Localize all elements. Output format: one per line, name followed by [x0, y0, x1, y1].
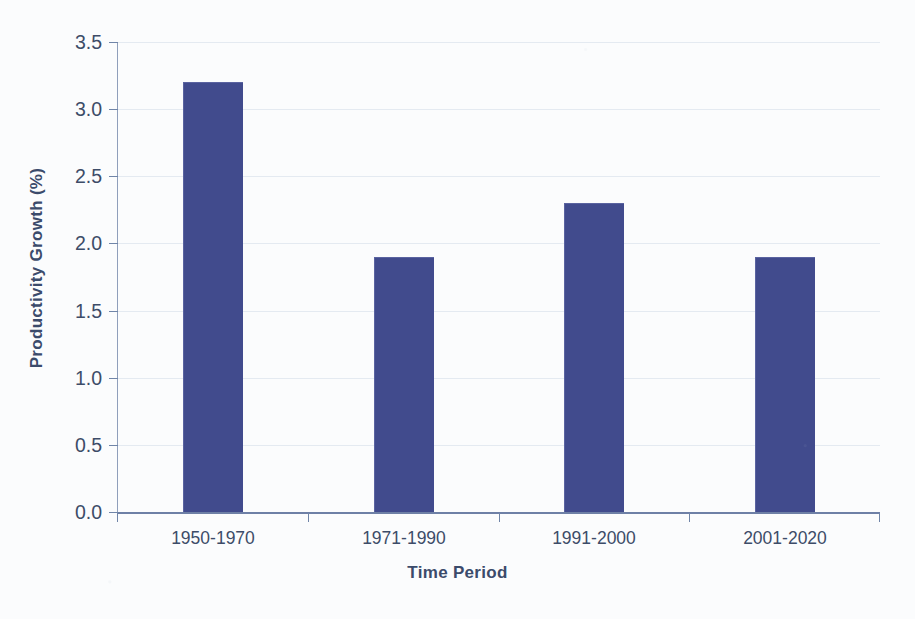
x-tick-label: 2001-2020 [705, 528, 865, 549]
y-tick-mark [109, 445, 118, 446]
y-tick-label: 0.5 [40, 434, 102, 457]
y-tick-label: 1.5 [40, 300, 102, 323]
y-tick-label: 3.5 [40, 31, 102, 54]
x-tick-mark [117, 513, 118, 522]
bar-1971-1990 [374, 257, 434, 512]
y-tick-mark [109, 109, 118, 110]
x-tick-label: 1971-1990 [324, 528, 484, 549]
bar-2001-2020 [755, 257, 815, 512]
gridline [118, 42, 880, 43]
bar-1991-2000 [564, 203, 624, 512]
x-tick-mark [308, 513, 309, 522]
x-axis-title: Time Period [0, 563, 915, 583]
x-tick-mark [879, 513, 880, 522]
bar-chart: 3.5 3.0 2.5 2.0 1.5 1.0 0.5 0.0 1950-197… [0, 0, 915, 619]
y-axis-title: Productivity Growth (%) [27, 138, 47, 398]
y-tick-label: 0.0 [40, 501, 102, 524]
x-tick-mark [499, 513, 500, 522]
y-axis-line [117, 42, 118, 513]
bar-1950-1970 [183, 82, 243, 512]
y-tick-label: 3.0 [40, 98, 102, 121]
y-tick-mark [109, 311, 118, 312]
x-tick-mark [689, 513, 690, 522]
y-tick-label: 2.0 [40, 232, 102, 255]
y-tick-label: 1.0 [40, 367, 102, 390]
y-tick-mark [109, 243, 118, 244]
x-tick-label: 1950-1970 [133, 528, 293, 549]
y-tick-label: 2.5 [40, 165, 102, 188]
y-tick-mark [109, 378, 118, 379]
y-tick-mark [109, 176, 118, 177]
y-tick-mark [109, 42, 118, 43]
x-tick-label: 1991-2000 [514, 528, 674, 549]
